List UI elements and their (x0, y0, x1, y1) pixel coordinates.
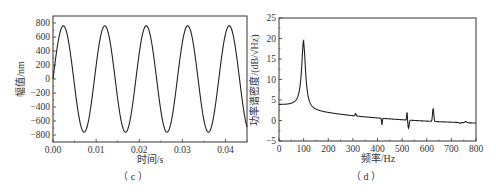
chart-c: 8006004002000−200−400−600−800 0.000.010.… (14, 16, 247, 182)
x-tick-label: 600 (420, 144, 435, 154)
x-axis-ticks-d: 0100200300400500600700800 (277, 138, 484, 154)
x-axis-label-c: 时间/s (137, 153, 164, 165)
x-axis-label-d: 频率/Hz (361, 152, 396, 164)
x-tick-label: 800 (469, 144, 484, 154)
y-tick-label: 25 (267, 13, 277, 23)
x-tick-label: 0.03 (174, 145, 191, 155)
y-axis-label-d: 功率谱密度/(dB/√Hz) (248, 34, 261, 125)
y-tick-label: −800 (30, 130, 50, 140)
x-tick-label: 0.04 (217, 145, 234, 155)
x-tick-label: 300 (346, 144, 361, 154)
x-axis-ticks-c: 0.000.010.020.030.04 (45, 139, 247, 155)
y-tick-label: 20 (267, 34, 277, 44)
y-tick-label: 10 (267, 75, 277, 85)
y-tick-label: 5 (271, 95, 276, 105)
x-tick-label: 100 (297, 144, 312, 154)
caption-c: （ c ） (118, 171, 147, 182)
y-tick-label: 0 (271, 116, 276, 126)
y-tick-label: −400 (30, 102, 50, 112)
x-tick-label: 0.01 (88, 145, 105, 155)
x-tick-label: 0 (277, 144, 282, 154)
y-tick-label: 800 (36, 18, 51, 28)
y-tick-label: 15 (267, 54, 277, 64)
sine-curve (53, 26, 247, 132)
y-tick-label: −600 (30, 116, 50, 126)
y-tick-label: −200 (30, 88, 50, 98)
y-tick-label: 0 (45, 74, 50, 84)
y-tick-label: 200 (36, 60, 51, 70)
x-tick-label: 0.00 (45, 145, 62, 155)
figure: 8006004002000−200−400−600−800 0.000.010.… (0, 0, 496, 192)
caption-d: （ d ） (351, 171, 381, 182)
x-tick-label: 200 (321, 144, 336, 154)
y-axis-label-c: 幅值/nm (14, 61, 26, 97)
psd-curve (279, 41, 476, 129)
y-tick-label: 600 (36, 32, 51, 42)
y-tick-label: −5 (266, 136, 276, 146)
y-axis-ticks-c: 8006004002000−200−400−600−800 (30, 18, 56, 140)
y-tick-label: 400 (36, 46, 51, 56)
x-tick-label: 500 (395, 144, 410, 154)
chart-d: 2520151050−5 0100200300400500600700800 功… (248, 13, 483, 182)
x-tick-label: 700 (444, 144, 459, 154)
y-axis-ticks-d: 2520151050−5 (266, 13, 282, 146)
